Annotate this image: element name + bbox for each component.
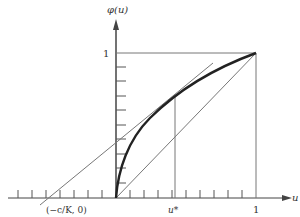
diagram-canvas: φ(u) 1 u 1 u* (−c/K, 0): [0, 0, 300, 217]
y-axis-arrow-icon: [113, 19, 119, 30]
y-axis-label: φ(u): [107, 4, 128, 15]
tangent-line: [40, 63, 213, 205]
x-axis-label: u: [292, 192, 298, 203]
intercept-label: (−c/K, 0): [46, 205, 87, 215]
u-star-label: u*: [168, 205, 179, 215]
y-one-label: 1: [103, 48, 109, 59]
x-one-label: 1: [253, 204, 259, 215]
x-axis-arrow-icon: [282, 195, 292, 201]
x-ticks: [18, 190, 242, 198]
